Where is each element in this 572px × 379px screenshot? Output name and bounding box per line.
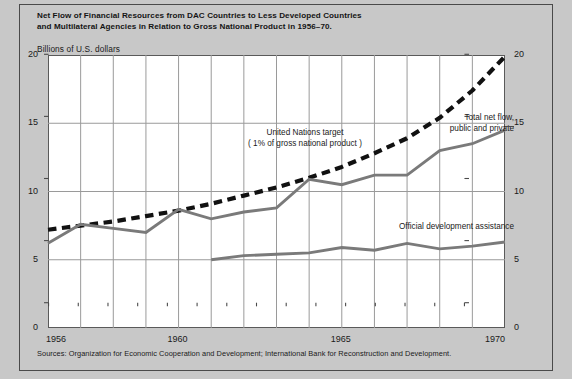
annotation-total-net-flow: Total net flow, public and private <box>428 113 514 134</box>
chart-title: Net Flow of Financial Resources from DAC… <box>37 11 507 32</box>
x-axis-tick-label: 1956 <box>46 334 66 344</box>
annotation-un-target: United Nations target ( 1% of gross nati… <box>230 128 380 149</box>
y-axis-tick-label-left: 10 <box>12 186 38 196</box>
y-axis-tick-label-left: 20 <box>12 49 38 59</box>
x-axis-tick-label: 1960 <box>168 334 188 344</box>
y-axis-tick-label-left: 15 <box>12 117 38 127</box>
y-axis-tick-label-right: 0 <box>514 322 540 332</box>
x-axis-tick-label: 1970 <box>485 334 505 344</box>
annotation-un-target-line-2: ( 1% of gross national product ) <box>230 139 380 150</box>
annotation-total-net-flow-line-1: Total net flow, <box>428 113 514 124</box>
bottom-axis-ticks <box>49 303 465 307</box>
y-axis-tick-label-right: 5 <box>514 254 540 264</box>
source-note: Sources: Organization for Economic Coope… <box>37 349 451 358</box>
tick-marks <box>28 47 485 320</box>
y-axis-tick-label-right: 20 <box>514 49 540 59</box>
chart-title-line-1: Net Flow of Financial Resources from DAC… <box>37 11 507 22</box>
y-axis-tick-label-right: 10 <box>514 186 540 196</box>
y-axis-tick-label-left: 5 <box>12 254 38 264</box>
annotation-un-target-line-1: United Nations target <box>230 128 380 139</box>
y-axis-tick-label-right: 15 <box>514 117 540 127</box>
annotation-total-net-flow-line-2: public and private <box>428 124 514 135</box>
right-axis-ticks <box>464 54 469 302</box>
annotation-official-development-assistance: Official development assistance <box>380 222 514 233</box>
plot-wrapper <box>48 55 505 328</box>
y-axis-tick-label-left: 0 <box>12 322 38 332</box>
left-axis-ticks <box>44 54 49 302</box>
x-axis-tick-label: 1965 <box>331 334 351 344</box>
chart-figure: Net Flow of Financial Resources from DAC… <box>0 0 572 379</box>
chart-title-line-2: and Multilateral Agencies in Relation to… <box>37 22 507 33</box>
leader-line-total-net-flow <box>505 126 514 127</box>
